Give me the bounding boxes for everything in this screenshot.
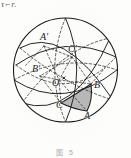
sphere-diagram	[0, 8, 131, 146]
label-c: C	[56, 100, 63, 110]
label-b: B	[94, 80, 100, 90]
label-b-prime: B′	[32, 64, 40, 74]
figure-root: τ⌐r.	[0, 0, 131, 158]
label-a-prime: A′	[40, 32, 48, 42]
label-c-prime: C′	[68, 44, 77, 54]
label-a: A	[84, 111, 90, 121]
figure-caption: 图 5	[0, 147, 131, 157]
hidden-great-circle-arcs	[14, 18, 117, 122]
label-o: O	[52, 78, 59, 88]
